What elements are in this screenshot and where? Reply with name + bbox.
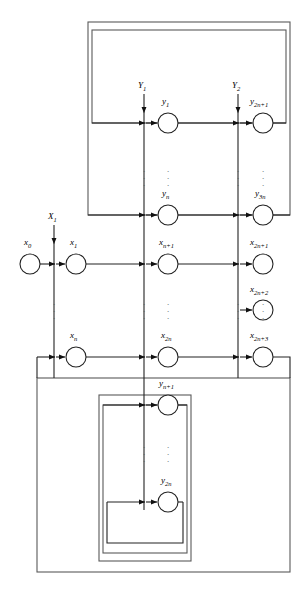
label-node-x2n1: x2n+1 <box>249 237 268 249</box>
label-node-yn1: yn+1 <box>158 378 174 390</box>
node-xn1[interactable] <box>158 254 178 274</box>
node-group <box>20 113 273 512</box>
ellipsis-dots: . <box>237 178 239 188</box>
label-node-xn: xn <box>69 330 77 342</box>
label-input-X1: X1 <box>47 211 57 223</box>
node-y3n[interactable] <box>253 205 273 225</box>
diagram-canvas: . . . . . . . . . . . . . . . . . . . . … <box>0 0 305 593</box>
node-x0[interactable] <box>20 254 40 274</box>
label-node-y3n: y3n <box>254 188 266 200</box>
label-node-y2n: y2n <box>160 475 172 487</box>
ellipsis-dots: . <box>262 311 264 321</box>
node-x2n[interactable] <box>158 347 178 367</box>
feedback-x2n3-down <box>273 357 290 378</box>
ellipsis-dots: . <box>53 311 55 321</box>
ellipsis-dots: . <box>262 178 264 188</box>
label-node-xn1: xn+1 <box>158 237 174 249</box>
node-y1[interactable] <box>158 113 178 133</box>
node-yn1[interactable] <box>158 395 178 415</box>
label-node-y2n1: y2n+1 <box>249 96 268 108</box>
label-input-Y2: Y2 <box>232 80 241 92</box>
label-node-x2n3: x2n+3 <box>249 330 269 342</box>
node-yn[interactable] <box>158 205 178 225</box>
label-node-x1: x1 <box>69 237 77 249</box>
label-node-x2n: x2n <box>160 330 172 342</box>
ellipsis-dots: . <box>143 454 145 464</box>
ellipsis-dots: . <box>167 178 169 188</box>
node-y2n[interactable] <box>158 492 178 512</box>
label-group: X1 Y1 Y2 x0 x1 xn y1 yn <box>23 80 269 487</box>
label-node-x2n2: x2n+2 <box>249 284 269 296</box>
label-node-y1: y1 <box>161 96 169 108</box>
node-x2n1[interactable] <box>253 254 273 274</box>
label-node-yn: yn <box>161 188 169 200</box>
ellipsis-dots: . <box>167 454 169 464</box>
node-y2n1[interactable] <box>253 113 273 133</box>
ellipsis-group: . . . . . . . . . . . . . . . . . . . . … <box>53 164 264 464</box>
node-x2n3[interactable] <box>253 347 273 367</box>
ellipsis-dots: . <box>167 311 169 321</box>
node-xn[interactable] <box>66 347 86 367</box>
ellipsis-dots: . <box>143 178 145 188</box>
box-top-inner <box>92 30 286 123</box>
node-x1[interactable] <box>66 254 86 274</box>
input-rails <box>54 94 238 510</box>
ellipsis-dots: . <box>143 311 145 321</box>
ellipsis-dots: . <box>237 311 239 321</box>
box-bottom-mid <box>99 395 191 561</box>
label-input-Y1: Y1 <box>138 80 146 92</box>
box-bottom-inner <box>103 405 187 553</box>
diagram-root: . . . . . . . . . . . . . . . . . . . . … <box>0 0 305 593</box>
label-node-x0: x0 <box>23 237 32 249</box>
